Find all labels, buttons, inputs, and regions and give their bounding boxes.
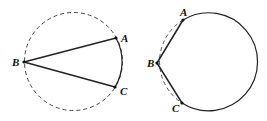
label-B-left: B	[11, 56, 19, 68]
label-C-left: C	[120, 85, 128, 97]
segment-BA-left	[24, 38, 116, 62]
point-A-right	[181, 18, 184, 21]
point-A-left	[114, 36, 117, 39]
left-figure: A B C	[11, 13, 128, 111]
point-B-left	[22, 60, 25, 63]
point-C-right	[180, 101, 183, 104]
segment-BC-left	[24, 62, 115, 87]
segment-BC-right	[157, 63, 182, 103]
right-solid-major-arc	[182, 13, 258, 111]
point-B-right	[155, 61, 158, 64]
right-dashed-minor-arc	[160, 20, 183, 103]
label-A-right: A	[179, 6, 187, 18]
label-B-right: B	[146, 57, 154, 69]
label-A-left: A	[120, 32, 128, 44]
left-solid-arc-AC	[115, 38, 122, 87]
left-dashed-circle	[25, 13, 123, 111]
label-C-right: C	[172, 102, 180, 114]
geometry-diagram: A B C A B C	[0, 0, 267, 121]
point-C-left	[113, 85, 116, 88]
segment-BA-right	[157, 20, 183, 63]
right-figure: A B C	[146, 6, 258, 114]
